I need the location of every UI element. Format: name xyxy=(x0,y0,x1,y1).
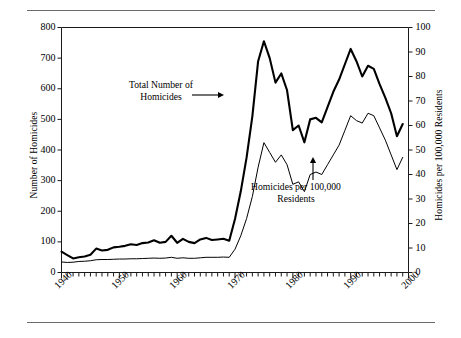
left-tick-label: 300 xyxy=(24,174,56,185)
left-tick-label: 0 xyxy=(24,266,56,277)
arrow-to-rate-line xyxy=(310,157,316,180)
right-tick-label: 60 xyxy=(416,119,448,130)
right-tick-label: 100 xyxy=(416,21,448,32)
axis-frame xyxy=(62,28,409,273)
right-tick-label: 70 xyxy=(416,95,448,106)
annotation-total-homicides: Total Number of Homicides xyxy=(103,79,219,102)
annotation-homicide-rate: Homicides per 100,000 Residents xyxy=(226,181,366,204)
data-series-layer xyxy=(62,41,403,262)
left-tick-label: 600 xyxy=(24,82,56,93)
annotation-total-line2: Homicides xyxy=(140,91,182,102)
left-axis-ticks xyxy=(58,28,62,273)
right-tick-label: 10 xyxy=(416,242,448,253)
left-tick-label: 100 xyxy=(24,235,56,246)
right-tick-label: 80 xyxy=(416,70,448,81)
left-tick-label: 700 xyxy=(24,52,56,63)
annotation-rate-line1: Homicides per 100,000 xyxy=(251,181,341,192)
right-tick-label: 90 xyxy=(416,46,448,57)
right-tick-label: 40 xyxy=(416,168,448,179)
left-tick-label: 500 xyxy=(24,113,56,124)
series-line-total xyxy=(62,41,403,258)
annotation-rate-line2: Residents xyxy=(277,193,314,204)
right-tick-label: 30 xyxy=(416,193,448,204)
right-tick-label: 20 xyxy=(416,217,448,228)
left-tick-label: 800 xyxy=(24,21,56,32)
figure-container: Number of Homicides Homicides per 100,00… xyxy=(0,0,461,338)
right-axis-ticks xyxy=(409,28,413,273)
right-tick-label: 50 xyxy=(416,144,448,155)
left-tick-label: 400 xyxy=(24,144,56,155)
left-tick-label: 200 xyxy=(24,205,56,216)
annotation-total-line1: Total Number of xyxy=(129,79,193,90)
